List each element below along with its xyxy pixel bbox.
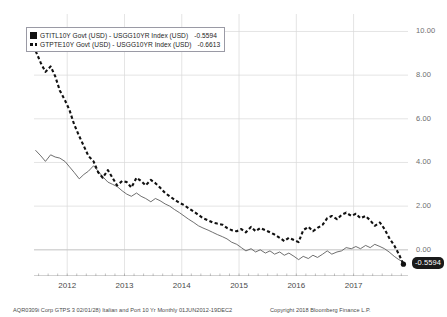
y-axis-tick-label: 4.00	[416, 157, 431, 166]
footer-copyright: Copyright 2018 Bloomberg Finance L.P.	[270, 307, 371, 313]
x-axis-tick-label: 2015	[230, 281, 248, 290]
x-axis-tick-label: 2017	[345, 281, 363, 290]
y-axis-tick-label: 8.00	[416, 70, 431, 79]
y-axis-tick-label: 6.00	[416, 114, 431, 123]
legend-series-label: GTPTE10Y Govt (USD) - USGG10YR Index (US…	[40, 41, 191, 48]
dashed-line-marker-icon	[30, 41, 37, 48]
solid-square-marker-icon	[30, 32, 37, 39]
chart-svg	[34, 14, 408, 276]
x-axis-tick-label: 2014	[173, 281, 191, 290]
legend-series-label: GTITL10Y Govt (USD) - USGG10YR Index (US…	[40, 32, 188, 39]
legend-series-value: -0.6613	[197, 41, 220, 48]
plot-area[interactable]	[34, 14, 408, 276]
footer-description: AQR0309i Corp GTPS 3 02/01/28) Italian a…	[13, 307, 232, 313]
x-axis-tick-label: 2016	[287, 281, 305, 290]
y-axis-tick-label: 10.00	[416, 26, 435, 35]
legend-row[interactable]: GTPTE10Y Govt (USD) - USGG10YR Index (US…	[30, 40, 220, 48]
y-axis-tick-label: 0.00	[416, 245, 431, 254]
last-value-badge: -0.5594	[412, 257, 444, 269]
legend-row[interactable]: GTITL10Y Govt (USD) - USGG10YR Index (US…	[30, 31, 220, 39]
chart-screenshot: 10.008.006.004.002.000.00 20122013201420…	[0, 0, 447, 317]
legend-series-value: -0.5594	[194, 32, 217, 39]
x-axis-tick-label: 2012	[58, 281, 76, 290]
chart-legend[interactable]: GTITL10Y Govt (USD) - USGG10YR Index (US…	[26, 27, 225, 52]
y-axis-tick-label: 2.00	[416, 201, 431, 210]
x-axis-tick-label: 2013	[116, 281, 134, 290]
